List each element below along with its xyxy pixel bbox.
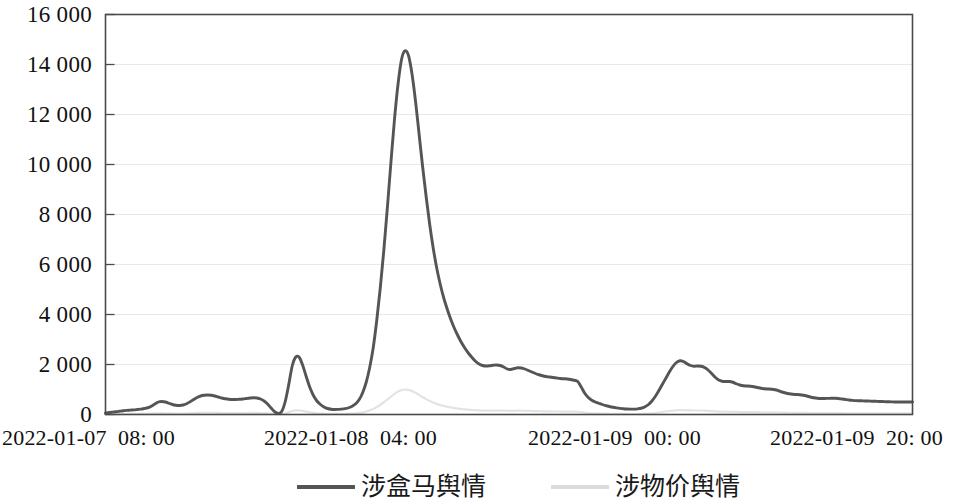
x-tick-label: 2022-01-07 08: 00 — [2, 426, 175, 450]
y-tick-label: 6 000 — [0, 253, 92, 276]
legend-entry-1[interactable]: 涉物价舆情 — [551, 472, 740, 502]
chart-figure: 16 00014 00012 00010 0008 0006 0004 0002… — [0, 0, 970, 504]
legend-label-1: 涉物价舆情 — [615, 473, 740, 501]
x-tick-label: 2022-01-09 00: 00 — [528, 426, 701, 450]
legend-label-0: 涉盒马舆情 — [361, 473, 486, 501]
y-tick-label: 12 000 — [0, 103, 92, 126]
chart-legend: 涉盒马舆情 涉物价舆情 — [0, 470, 970, 504]
y-tick-label: 4 000 — [0, 303, 92, 326]
legend-swatch-line-0 — [297, 485, 355, 489]
y-tick-label: 16 000 — [0, 3, 92, 26]
x-tick-label: 2022-01-09 20: 00 — [770, 426, 943, 450]
y-tick-label: 14 000 — [0, 53, 92, 76]
y-tick-label: 0 — [0, 403, 92, 426]
y-tick-marks-group — [106, 15, 115, 415]
series-line-0 — [106, 51, 913, 414]
series-paths-group — [106, 51, 913, 415]
legend-swatch-line-1 — [551, 485, 609, 489]
legend-entry-0[interactable]: 涉盒马舆情 — [297, 472, 486, 502]
y-tick-label: 8 000 — [0, 203, 92, 226]
x-tick-label: 2022-01-08 04: 00 — [264, 426, 437, 450]
y-tick-label: 10 000 — [0, 153, 92, 176]
y-tick-label: 2 000 — [0, 353, 92, 376]
gridlines-group — [106, 65, 913, 365]
